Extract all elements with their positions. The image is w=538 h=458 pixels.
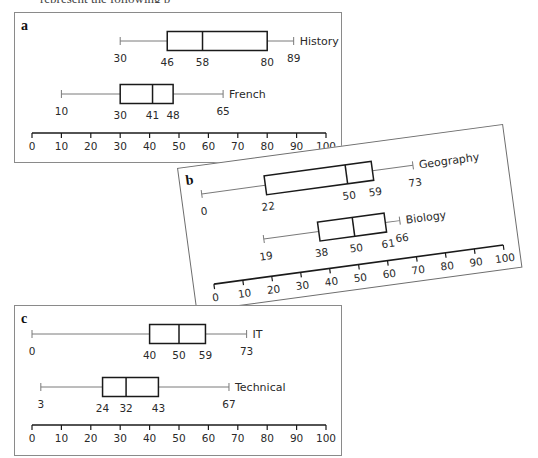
axis-tick-label: 90 [290,432,303,444]
q3-value-label: 61 [381,237,396,251]
axis-tick-label: 100 [494,251,515,266]
x-axis: 0102030405060708090100 [29,133,336,152]
min-value-label: 10 [55,105,68,117]
axis-tick-label: 70 [411,263,426,277]
lower-whisker [264,232,319,239]
max-value-label: 73 [240,345,253,357]
q3-value-label: 59 [368,185,383,199]
axis-tick-label: 30 [114,140,127,152]
max-cap [412,161,413,169]
axis-tick-label: 10 [237,286,252,300]
boxplot-history: History3046588089 [114,32,340,69]
max-value-label: 65 [216,105,229,117]
axis-tick-label: 50 [172,432,185,444]
axis-tick [301,272,302,277]
q3-value-label: 43 [152,402,165,414]
axis-tick-label: 80 [261,432,274,444]
boxplot-chart-a: History3046588089French10304148650102030… [15,13,343,164]
axis-tick-label: 0 [29,140,36,152]
axis-tick [272,276,273,281]
axis-tick-label: 70 [231,432,244,444]
median-value-label: 32 [119,402,132,414]
series-label: History [300,35,340,48]
iqr-box [317,213,386,241]
q3-value-label: 48 [166,109,179,121]
max-value-label: 73 [408,175,423,189]
series-label: IT [253,328,263,341]
axis-tick-label: 70 [231,140,244,152]
upper-whisker [372,165,413,170]
q1-value-label: 22 [261,199,276,213]
median-value-label: 50 [172,349,185,361]
boxplot-french: French1030414865 [55,85,266,122]
axis-tick-label: 40 [143,432,156,444]
median-value-label: 50 [349,241,364,255]
q1-value-label: 30 [114,109,127,121]
axis-tick-label: 40 [143,140,156,152]
series-label: Geography [418,150,480,171]
q3-value-label: 59 [199,349,212,361]
axis-tick-label: 60 [202,432,215,444]
axis-tick [359,265,360,270]
boxplot-panel-c: c IT040505973Technical324324367010203040… [14,305,342,456]
q1-value-label: 24 [96,402,110,414]
axis-tick [214,284,215,289]
min-cap [263,235,264,243]
axis-tick-label: 60 [382,267,397,281]
axis-tick [503,245,504,250]
max-value-label: 67 [222,398,235,410]
axis-tick-label: 0 [212,291,220,304]
min-value-label: 3 [37,398,44,410]
axis-tick [388,261,389,266]
axis-tick-label: 10 [55,432,68,444]
min-value-label: 0 [200,204,208,217]
upper-whisker [385,221,399,223]
axis-tick-label: 20 [266,282,281,296]
max-value-label: 66 [395,231,410,245]
q1-value-label: 46 [161,56,175,68]
axis-tick-label: 20 [84,140,97,152]
min-value-label: 30 [114,52,127,64]
axis-tick-label: 30 [114,432,127,444]
axis-tick-label: 50 [172,140,185,152]
axis-tick-label: 30 [295,278,310,292]
axis-tick-label: 80 [261,140,274,152]
iqr-box [264,161,374,194]
q1-value-label: 40 [143,349,156,361]
max-value-label: 89 [287,52,300,64]
iqr-box [103,378,159,397]
boxplot-technical: Technical324324367 [37,378,285,415]
axis-tick [330,268,331,273]
iqr-box [150,325,206,344]
series-label: French [229,88,266,101]
boxplot-chart-c: IT040505973Technical32432436701020304050… [15,306,343,457]
axis-tick [416,257,417,262]
series-label: Technical [234,381,286,394]
x-axis: 0102030405060708090100 [29,425,336,444]
min-value-label: 19 [259,249,274,263]
q1-value-label: 38 [314,246,329,260]
axis-tick [445,253,446,258]
axis-tick-label: 10 [55,140,68,152]
axis-tick-label: 60 [202,140,215,152]
max-cap [399,217,400,225]
axis-tick-label: 40 [324,274,339,288]
median-value-label: 41 [146,109,159,121]
axis-tick-label: 50 [353,271,368,285]
axis-tick [243,280,244,285]
boxplot-it: IT040505973 [29,325,263,362]
q3-value-label: 80 [261,56,274,68]
boxplot-panel-a: a History3046588089French103041486501020… [14,12,342,163]
min-cap [201,190,202,198]
axis-tick-label: 90 [469,255,484,269]
axis-tick-label: 100 [316,432,336,444]
axis-tick [474,249,475,254]
cropped-heading-fragment: represent the following p [40,0,170,3]
min-value-label: 0 [29,345,36,357]
iqr-box [120,85,173,104]
axis-tick-label: 80 [440,259,455,273]
median-value-label: 50 [342,188,357,202]
lower-whisker [202,185,266,194]
axis-tick-label: 20 [84,432,97,444]
iqr-box [167,32,267,51]
